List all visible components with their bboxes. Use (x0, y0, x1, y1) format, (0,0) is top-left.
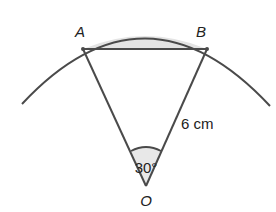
radius-label: 6 cm (181, 115, 214, 132)
label-o: O (140, 192, 152, 209)
label-a: A (74, 23, 85, 40)
angle-label: 30° (135, 159, 158, 176)
label-b: B (196, 23, 206, 40)
point-a-dot (81, 47, 85, 51)
sector-diagram: A B O 30° 6 cm (0, 0, 276, 212)
point-b-dot (205, 47, 209, 51)
